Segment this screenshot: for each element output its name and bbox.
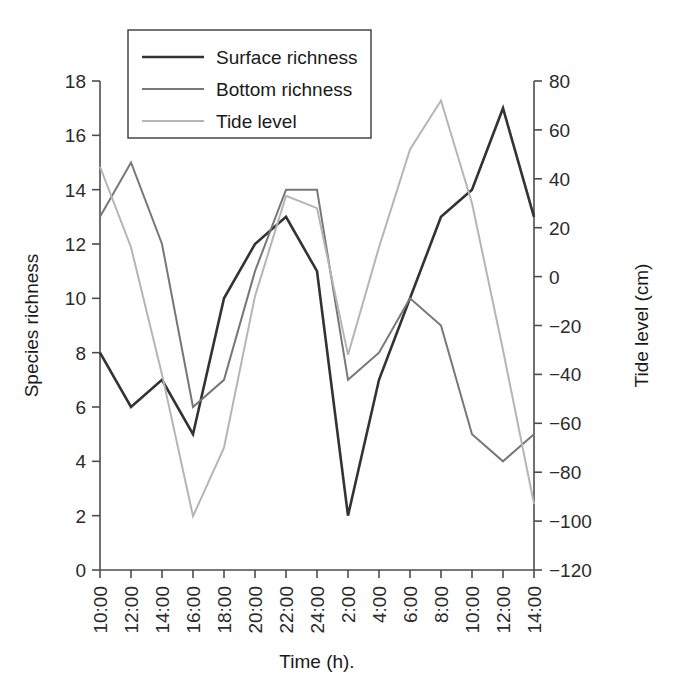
- legend-label-tide-level: Tide level: [216, 111, 297, 132]
- x-tick-label: 20:00: [245, 586, 266, 634]
- x-tick-label: 16:00: [183, 586, 204, 634]
- y-tick-label-left: 2: [75, 506, 86, 527]
- y-tick-label-right: −80: [549, 462, 581, 483]
- legend-label-bottom-richness: Bottom richness: [216, 79, 352, 100]
- y-tick-label-right: −60: [549, 413, 581, 434]
- y-tick-label-right: −20: [549, 316, 581, 337]
- series-line-tide-level: [100, 101, 534, 517]
- x-tick-label: 4:00: [369, 586, 390, 623]
- y-axis-title-left: Species richness: [21, 254, 42, 398]
- series-line-surface-richness: [100, 108, 534, 516]
- y-tick-label-left: 14: [65, 180, 87, 201]
- line-chart: 024681012141618−120−100−80−60−40−2002040…: [0, 0, 677, 698]
- y-tick-label-left: 10: [65, 288, 86, 309]
- x-tick-label: 6:00: [400, 586, 421, 623]
- y-tick-label-left: 6: [75, 397, 86, 418]
- y-tick-label-left: 16: [65, 125, 86, 146]
- y-tick-label-right: −100: [549, 511, 592, 532]
- y-tick-label-right: 0: [549, 267, 560, 288]
- y-axis-title-right: Tide level (cm): [631, 264, 652, 388]
- y-tick-label-left: 4: [75, 451, 86, 472]
- y-tick-label-left: 12: [65, 234, 86, 255]
- y-tick-label-right: −40: [549, 364, 581, 385]
- x-tick-label: 12:00: [121, 586, 142, 634]
- x-tick-label: 24:00: [307, 586, 328, 634]
- x-tick-label: 14:00: [152, 586, 173, 634]
- x-tick-label: 10:00: [462, 586, 483, 634]
- x-tick-label: 22:00: [276, 586, 297, 634]
- y-tick-label-left: 8: [75, 343, 86, 364]
- y-tick-label-right: 20: [549, 218, 570, 239]
- y-tick-label-right: 80: [549, 71, 570, 92]
- x-axis-title: Time (h).: [279, 651, 354, 672]
- x-tick-label: 12:00: [493, 586, 514, 634]
- y-tick-label-right: 40: [549, 169, 570, 190]
- y-tick-label-left: 18: [65, 71, 86, 92]
- x-tick-label: 2:00: [338, 586, 359, 623]
- y-tick-label-right: −120: [549, 560, 592, 581]
- x-tick-label: 10:00: [90, 586, 111, 634]
- chart-container: 024681012141618−120−100−80−60−40−2002040…: [0, 0, 677, 698]
- x-tick-label: 8:00: [431, 586, 452, 623]
- x-tick-label: 14:00: [524, 586, 545, 634]
- y-tick-label-left: 0: [75, 560, 86, 581]
- y-tick-label-right: 60: [549, 120, 570, 141]
- x-tick-label: 18:00: [214, 586, 235, 634]
- legend-label-surface-richness: Surface richness: [216, 47, 358, 68]
